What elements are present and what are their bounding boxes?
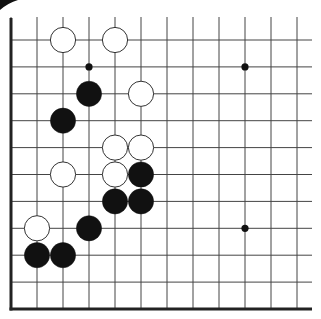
grid-lines xyxy=(10,17,313,311)
star-point xyxy=(241,63,248,70)
black-stone[interactable] xyxy=(50,243,75,268)
white-stone[interactable] xyxy=(102,162,127,187)
star-point xyxy=(241,225,248,232)
black-stone[interactable] xyxy=(24,243,49,268)
corner-fragment xyxy=(0,0,18,10)
white-stone[interactable] xyxy=(102,27,127,52)
white-stone[interactable] xyxy=(50,162,75,187)
black-stone[interactable] xyxy=(76,81,101,106)
black-stone[interactable] xyxy=(76,216,101,241)
white-stone[interactable] xyxy=(102,135,127,160)
black-stone[interactable] xyxy=(102,189,127,214)
black-stone[interactable] xyxy=(128,162,153,187)
white-stone[interactable] xyxy=(128,135,153,160)
black-stone[interactable] xyxy=(128,189,153,214)
go-board[interactable] xyxy=(0,0,321,319)
white-stone[interactable] xyxy=(50,27,75,52)
white-stone[interactable] xyxy=(24,216,49,241)
black-stone[interactable] xyxy=(50,108,75,133)
white-stone[interactable] xyxy=(128,81,153,106)
star-point xyxy=(85,63,92,70)
